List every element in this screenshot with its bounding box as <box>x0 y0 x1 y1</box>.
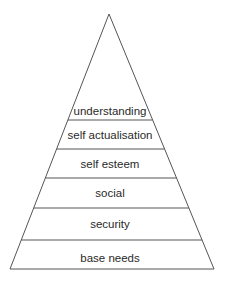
pyramid-diagram: understanding self actualisation self es… <box>0 0 228 286</box>
level-understanding: understanding <box>74 105 147 117</box>
level-security: security <box>90 218 130 230</box>
level-self-actualisation: self actualisation <box>67 129 152 141</box>
level-base-needs: base needs <box>80 252 140 264</box>
level-social: social <box>95 187 124 199</box>
level-self-esteem: self esteem <box>81 158 140 170</box>
pyramid-outline <box>10 14 214 269</box>
